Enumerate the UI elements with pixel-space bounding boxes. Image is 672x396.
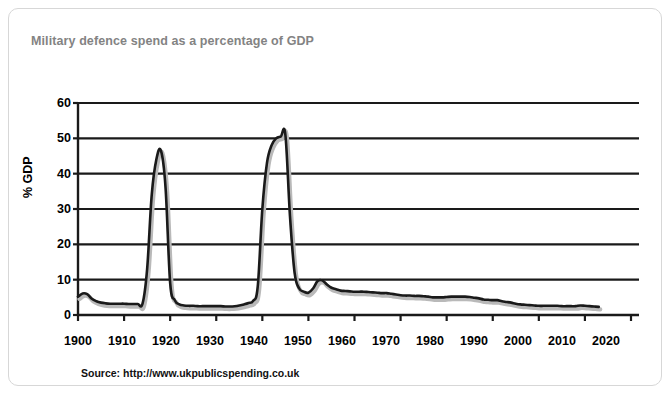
chart-svg	[9, 9, 663, 387]
chart-card: Military defence spend as a percentage o…	[8, 8, 662, 386]
gridlines	[78, 103, 639, 280]
source-note: Source: http://www.ukpublicspending.co.u…	[81, 367, 299, 379]
axis-ticks	[73, 103, 631, 321]
chart-plot-area: % GDP 60 50 40 30 20 10 0 1900 1910 1920…	[9, 9, 663, 387]
